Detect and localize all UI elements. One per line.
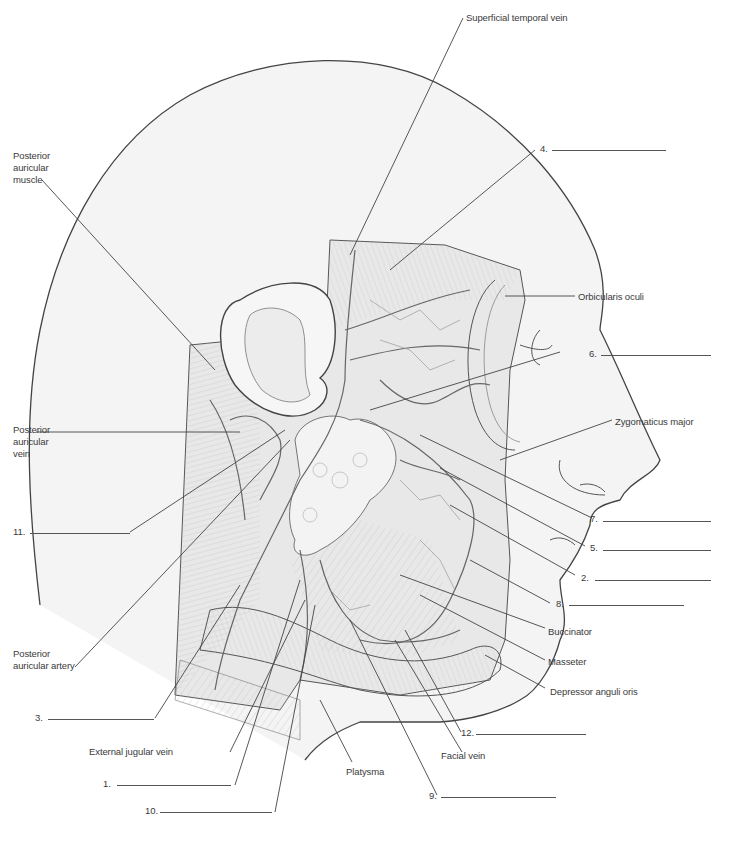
label-posterior-auricular-artery: Posterior auricular artery	[13, 648, 75, 672]
blank-number: 10.	[145, 805, 158, 817]
answer-line[interactable]	[476, 734, 586, 735]
answer-line[interactable]	[603, 521, 711, 522]
blank-number: 2.	[581, 572, 589, 584]
label-orbicularis-oculi: Orbicularis oculi	[578, 291, 644, 303]
blank-number: 3.	[35, 712, 43, 724]
blank-number: 1.	[103, 778, 111, 790]
label-masseter: Masseter	[548, 656, 586, 668]
label-superficial-temporal-vein: Superficial temporal vein	[466, 12, 568, 24]
answer-line[interactable]	[601, 355, 711, 356]
answer-line[interactable]	[441, 797, 556, 798]
label-line: auricular	[13, 436, 73, 448]
label-facial-vein: Facial vein	[441, 750, 485, 762]
answer-line[interactable]	[30, 533, 130, 534]
label-depressor-anguli-oris: Depressor anguli oris	[550, 686, 638, 698]
label-line: muscle	[13, 174, 73, 186]
label-line: auricular	[13, 162, 73, 174]
label-line: Posterior	[13, 648, 75, 660]
answer-line[interactable]	[160, 812, 272, 813]
label-posterior-auricular-vein: Posterior auricular vein	[13, 424, 73, 460]
answer-line[interactable]	[569, 605, 684, 606]
answer-line[interactable]	[603, 550, 711, 551]
blank-number: 11.	[13, 526, 26, 538]
blank-number: 8.	[556, 598, 564, 610]
blank-number: 12.	[461, 727, 474, 739]
answer-line[interactable]	[117, 785, 231, 786]
label-platysma: Platysma	[346, 766, 384, 778]
blank-number: 7.	[590, 513, 598, 525]
blank-number: 5.	[590, 542, 598, 554]
answer-line[interactable]	[48, 719, 154, 720]
label-external-jugular-vein: External jugular vein	[89, 746, 173, 758]
label-buccinator: Buccinator	[548, 626, 592, 638]
label-line: Posterior	[13, 150, 73, 162]
answer-line[interactable]	[552, 150, 666, 151]
label-line: auricular artery	[13, 660, 75, 672]
blank-number: 4.	[540, 143, 548, 155]
blank-number: 9.	[429, 790, 437, 802]
label-posterior-auricular-muscle: Posterior auricular muscle	[13, 150, 73, 186]
label-line: Posterior	[13, 424, 73, 436]
blank-number: 6.	[589, 348, 597, 360]
label-zygomaticus-major: Zygomaticus major	[615, 416, 694, 428]
answer-line[interactable]	[595, 580, 711, 581]
label-line: vein	[13, 448, 73, 460]
